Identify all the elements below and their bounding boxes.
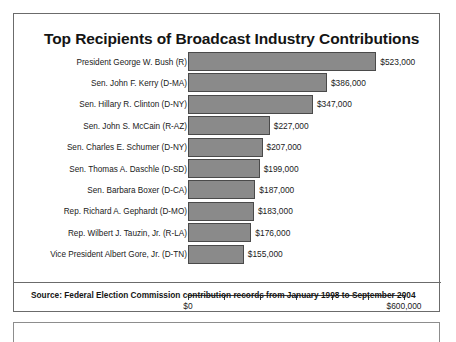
bar-category-label: President George W. Bush (R) — [76, 57, 187, 66]
bar-row: President George W. Bush (R)$523,000 — [14, 52, 441, 71]
bar-row: Sen. John F. Kerry (D-MA)$386,000 — [14, 73, 441, 92]
bar-category-label: Sen. John F. Kerry (D-MA) — [91, 78, 187, 87]
chart-title: Top Recipients of Broadcast Industry Con… — [44, 30, 419, 48]
bar-category-label: Rep. Richard A. Gephardt (D-MO) — [64, 207, 187, 216]
bar-row: Sen. Charles E. Schumer (D-NY)$207,000 — [14, 138, 441, 157]
bar-row: Rep. Richard A. Gephardt (D-MO)$183,000 — [14, 202, 441, 221]
bar-value-label: $347,000 — [317, 99, 352, 109]
bar-row: Vice President Albert Gore, Jr. (D-TN)$1… — [14, 245, 441, 264]
bar-value-label: $227,000 — [274, 121, 309, 131]
bar-value-label: $523,000 — [380, 57, 415, 67]
bar — [188, 138, 263, 157]
bar-value-label: $386,000 — [331, 78, 366, 88]
bar-value-label: $176,000 — [255, 228, 290, 238]
bar-category-label: Sen. Hillary R. Clinton (D-NY) — [79, 100, 187, 109]
bar — [188, 202, 254, 221]
bar-row: Sen. John S. McCain (R-AZ)$227,000 — [14, 116, 441, 135]
bar-category-label: Sen. John S. McCain (R-AZ) — [83, 121, 187, 130]
bar-value-label: $155,000 — [248, 249, 283, 259]
bar — [188, 73, 327, 92]
bar-row: Sen. Thomas A. Daschle (D-SD)$199,000 — [14, 159, 441, 178]
bar-category-label: Sen. Thomas A. Daschle (D-SD) — [69, 164, 187, 173]
source-note: Source: Federal Election Commission cont… — [31, 290, 416, 300]
bar-category-label: Vice President Albert Gore, Jr. (D-TN) — [50, 250, 187, 259]
bar-value-label: $207,000 — [267, 142, 302, 152]
bar-row: Sen. Hillary R. Clinton (D-NY)$347,000 — [14, 95, 441, 114]
x-axis-tick-label-min: $0 — [183, 301, 192, 311]
x-axis-tick-label-max: $600,000 — [387, 301, 422, 311]
bar-value-label: $199,000 — [264, 164, 299, 174]
bar — [188, 116, 270, 135]
bar — [188, 245, 244, 264]
bar — [188, 223, 251, 242]
bar-row: Rep. Wilbert J. Tauzin, Jr. (R-LA)$176,0… — [14, 223, 441, 242]
bar — [188, 52, 376, 71]
bar — [188, 180, 255, 199]
bar-category-label: Sen. Charles E. Schumer (D-NY) — [67, 143, 187, 152]
bar — [188, 95, 313, 114]
bar-row: Sen. Barbara Boxer (D-CA)$187,000 — [14, 180, 441, 199]
bar-category-label: Rep. Wilbert J. Tauzin, Jr. (R-LA) — [68, 228, 187, 237]
bar — [188, 159, 260, 178]
bar-category-label: Sen. Barbara Boxer (D-CA) — [87, 185, 187, 194]
bar-value-label: $183,000 — [258, 206, 293, 216]
bar-value-label: $187,000 — [259, 185, 294, 195]
next-figure-panel-edge — [13, 322, 440, 342]
figure-panel: Top Recipients of Broadcast Industry Con… — [13, 13, 440, 312]
source-divider — [14, 282, 441, 283]
bar-chart-plot-area: President George W. Bush (R)$523,000Sen.… — [14, 52, 441, 274]
